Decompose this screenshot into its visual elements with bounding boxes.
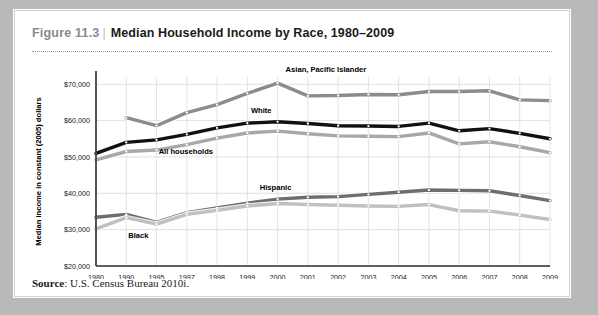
data-point-marker bbox=[398, 135, 400, 137]
data-point-marker bbox=[307, 203, 309, 205]
data-point-marker bbox=[549, 199, 551, 201]
data-point-marker bbox=[367, 135, 369, 137]
data-point-marker bbox=[367, 93, 369, 95]
data-point-marker bbox=[155, 139, 157, 141]
data-point-marker bbox=[276, 202, 278, 204]
data-point-marker bbox=[488, 90, 490, 92]
y-axis-tick-label: $40,000 bbox=[64, 189, 90, 198]
chart-area: $20,000$30,000$40,000$50,000$60,000$70,0… bbox=[15, 57, 571, 279]
data-point-marker bbox=[307, 196, 309, 198]
data-point-marker bbox=[398, 125, 400, 127]
axis-layer: $20,000$30,000$40,000$50,000$60,000$70,0… bbox=[34, 71, 558, 279]
data-point-marker bbox=[337, 204, 339, 206]
source-label: Source bbox=[32, 277, 64, 289]
data-point-marker bbox=[549, 151, 551, 153]
data-point-marker bbox=[519, 214, 521, 216]
series-label-asian-pacific-islander: Asian, Pacific Islander bbox=[286, 65, 367, 74]
x-axis-tick-label: 2000 bbox=[270, 273, 286, 279]
figure-card: Figure 11.3|Median Household Income by R… bbox=[14, 10, 570, 297]
y-axis-title: Median income in constant (2005) dollars bbox=[34, 97, 43, 246]
data-point-marker bbox=[216, 209, 218, 211]
data-point-marker bbox=[428, 132, 430, 134]
data-point-marker bbox=[216, 137, 218, 139]
data-point-marker bbox=[428, 122, 430, 124]
data-point-marker bbox=[246, 92, 248, 94]
x-axis-tick-label: 2008 bbox=[512, 273, 528, 279]
x-axis-tick-label: 2003 bbox=[360, 273, 376, 279]
data-point-marker bbox=[186, 143, 188, 145]
data-point-marker bbox=[428, 90, 430, 92]
data-point-marker bbox=[125, 150, 127, 152]
data-point-marker bbox=[337, 135, 339, 137]
data-point-marker bbox=[246, 132, 248, 134]
x-axis-tick-label: 1998 bbox=[209, 273, 225, 279]
x-axis-tick-label: 2005 bbox=[421, 273, 437, 279]
line-chart: $20,000$30,000$40,000$50,000$60,000$70,0… bbox=[15, 57, 571, 279]
data-point-marker bbox=[488, 190, 490, 192]
figure-title-row: Figure 11.3|Median Household Income by R… bbox=[32, 23, 394, 41]
y-axis-tick-label: $50,000 bbox=[64, 153, 90, 162]
series-label-all-households: All households bbox=[159, 147, 213, 156]
series-halo bbox=[96, 203, 550, 228]
y-axis-tick-label: $60,000 bbox=[64, 116, 90, 125]
figure-number: Figure 11.3 bbox=[32, 26, 100, 40]
series-label-white: White bbox=[251, 106, 272, 115]
x-axis-tick-label: 2007 bbox=[481, 273, 497, 279]
x-axis-tick-label: 2001 bbox=[300, 273, 316, 279]
series-label-hispanic: Hispanic bbox=[260, 183, 292, 192]
data-point-marker bbox=[186, 111, 188, 113]
data-point-marker bbox=[125, 217, 127, 219]
data-point-marker bbox=[549, 138, 551, 140]
x-axis-tick-label: 2002 bbox=[330, 273, 346, 279]
data-point-marker bbox=[428, 203, 430, 205]
data-point-marker bbox=[367, 205, 369, 207]
data-point-marker bbox=[337, 125, 339, 127]
y-axis-tick-label: $20,000 bbox=[64, 262, 90, 271]
data-point-marker bbox=[367, 125, 369, 127]
data-point-marker bbox=[458, 130, 460, 132]
data-point-marker bbox=[398, 94, 400, 96]
data-point-marker bbox=[125, 141, 127, 143]
data-point-marker bbox=[246, 205, 248, 207]
data-point-marker bbox=[155, 223, 157, 225]
grid-layer bbox=[96, 77, 550, 266]
data-point-marker bbox=[276, 130, 278, 132]
data-point-marker bbox=[519, 146, 521, 148]
data-point-marker bbox=[488, 141, 490, 143]
data-point-marker bbox=[307, 95, 309, 97]
title-divider bbox=[32, 51, 552, 52]
data-point-marker bbox=[519, 194, 521, 196]
data-point-marker bbox=[155, 125, 157, 127]
data-point-marker bbox=[276, 121, 278, 123]
data-point-marker bbox=[246, 122, 248, 124]
x-axis-tick-label: 1999 bbox=[239, 273, 255, 279]
data-point-marker bbox=[216, 127, 218, 129]
data-point-marker bbox=[549, 99, 551, 101]
data-point-marker bbox=[458, 90, 460, 92]
data-point-marker bbox=[398, 205, 400, 207]
x-axis-tick-label: 2009 bbox=[542, 273, 558, 279]
data-point-marker bbox=[519, 132, 521, 134]
data-point-marker bbox=[488, 127, 490, 129]
data-point-marker bbox=[276, 82, 278, 84]
x-axis-tick-label: 2004 bbox=[391, 273, 407, 279]
data-point-marker bbox=[125, 117, 127, 119]
y-axis-tick-label: $70,000 bbox=[64, 80, 90, 89]
data-point-marker bbox=[428, 189, 430, 191]
data-point-marker bbox=[519, 99, 521, 101]
series-label-black: Black bbox=[128, 231, 149, 240]
source-note: Source: U.S. Census Bureau 2010i. bbox=[32, 277, 189, 289]
data-point-marker bbox=[337, 195, 339, 197]
data-point-marker bbox=[488, 210, 490, 212]
data-point-marker bbox=[307, 122, 309, 124]
data-point-marker bbox=[337, 94, 339, 96]
title-separator: | bbox=[103, 26, 106, 40]
data-point-marker bbox=[216, 103, 218, 105]
page-title: Median Household Income by Race, 1980–20… bbox=[111, 26, 394, 40]
data-point-marker bbox=[186, 213, 188, 215]
data-point-marker bbox=[155, 149, 157, 151]
data-point-marker bbox=[458, 189, 460, 191]
data-point-marker bbox=[398, 191, 400, 193]
data-point-marker bbox=[276, 198, 278, 200]
y-axis-tick-label: $30,000 bbox=[64, 225, 90, 234]
